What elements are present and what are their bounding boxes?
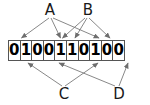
bit-string-row: 0 1 0 0 1 1 0 1 0 0: [8, 40, 124, 61]
edge-c-to-bit-1: [28, 63, 62, 86]
binary-string-pointer-diagram: A B 0 1 0 0 1 1 0 1 0 0 C D: [0, 0, 150, 105]
edge-c-to-bit-7: [65, 63, 98, 86]
node-label-c: C: [56, 87, 72, 102]
node-label-d: D: [111, 87, 127, 102]
node-label-a: A: [42, 3, 58, 18]
edge-a-to-bit-1: [22, 18, 50, 38]
edge-d-to-bit-4: [59, 63, 115, 86]
bit-cell-9[interactable]: 0: [112, 40, 125, 61]
edge-b-to-bit-4: [63, 18, 86, 38]
edge-d-to-bit-9: [119, 63, 128, 86]
node-label-b: B: [80, 3, 96, 18]
